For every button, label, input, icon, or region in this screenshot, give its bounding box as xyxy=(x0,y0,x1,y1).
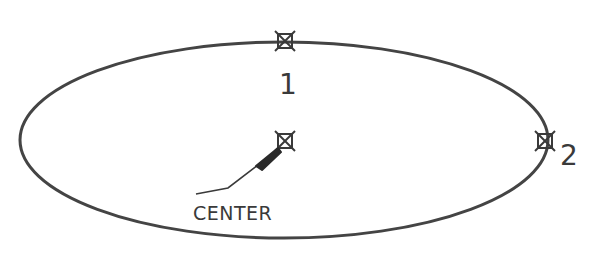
point-2-label: 2 xyxy=(560,139,578,172)
point-2-marker-icon xyxy=(535,131,555,151)
center-label: CENTER xyxy=(193,202,272,224)
ellipse-diagram: 1 2 CENTER xyxy=(0,0,604,261)
point-1-label: 1 xyxy=(279,68,297,101)
point-1-marker-icon xyxy=(275,31,295,51)
center-leader-arrow-icon xyxy=(196,148,281,194)
